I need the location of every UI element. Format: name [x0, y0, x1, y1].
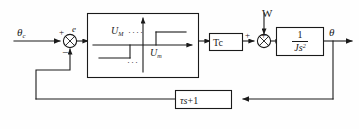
diagram-vector-layer	[0, 0, 359, 129]
reference-input-label: θc	[17, 27, 25, 38]
gain-block-label: Tc	[213, 38, 223, 48]
plant-denominator: Js2	[294, 43, 305, 54]
plant-numerator: 1	[298, 30, 303, 41]
plant-block-transfer-function: 1 Js2	[277, 28, 323, 55]
feedback-block-label: τs+1	[180, 96, 198, 106]
disturbance-sum-left-sign: +	[245, 31, 250, 40]
nonlinearity-lower-level-label: Um	[150, 48, 162, 58]
disturbance-input-label: W	[262, 8, 272, 19]
nonlinearity-upper-level-label: UM	[111, 26, 123, 36]
output-signal-label: θ	[329, 27, 334, 38]
error-signal-label: e	[72, 25, 76, 34]
nonlinearity-lower-leader-dots: ···	[127, 58, 139, 67]
block-diagram-canvas: θc e + − UM Um ···· ··· Tc W + + 1 Js2 θ…	[0, 0, 359, 129]
disturbance-sum-top-sign: +	[261, 31, 266, 40]
summing-junction-minus-sign: −	[62, 47, 68, 58]
summing-junction-plus-sign: +	[59, 28, 64, 37]
nonlinearity-upper-leader-dots: ····	[128, 28, 144, 37]
